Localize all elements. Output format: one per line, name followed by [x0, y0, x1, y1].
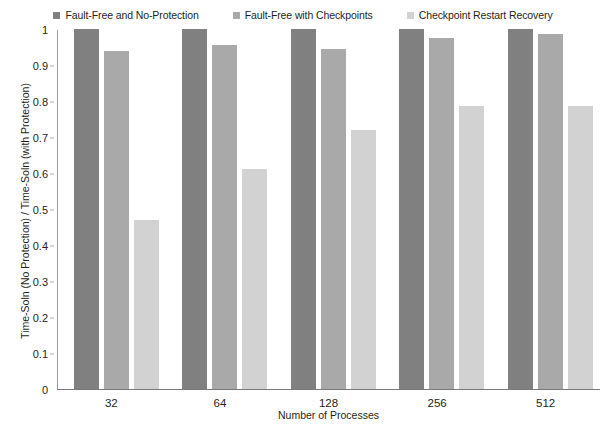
bar-group-128 — [275, 30, 383, 389]
y-axis-tick-mark — [50, 354, 54, 355]
bar-series-0-category-512[interactable] — [508, 29, 533, 389]
legend-swatch-icon-series-2 — [407, 12, 414, 19]
plot-inner — [58, 30, 600, 389]
bar-series-0-category-256[interactable] — [399, 29, 424, 389]
bar-series-1-category-256[interactable] — [429, 38, 454, 389]
y-axis-tick-label: 0.8 — [33, 97, 48, 108]
x-axis-title: Number of Processes — [57, 408, 600, 422]
y-axis-tick-mark — [50, 282, 54, 283]
y-axis-title: Time-Soln (No Protection) / Time-Soln (w… — [19, 36, 31, 386]
y-axis-tick-mark — [50, 138, 54, 139]
legend-item-series-0: Fault-Free and No-Protection — [53, 9, 198, 21]
y-axis-tick-mark — [50, 318, 54, 319]
chart-legend: Fault-Free and No-Protection Fault-Free … — [0, 4, 606, 26]
legend-label-series-2: Checkpoint Restart Recovery — [419, 9, 553, 21]
bar-series-0-category-128[interactable] — [291, 29, 316, 389]
y-axis-tick-mark — [50, 246, 54, 247]
bar-group-64 — [166, 30, 274, 389]
plot-area — [57, 30, 600, 390]
bar-series-2-category-256[interactable] — [459, 106, 484, 389]
y-axis-tick-label: 0.9 — [33, 61, 48, 72]
bar-series-1-category-64[interactable] — [212, 45, 237, 389]
y-axis-tick-mark — [50, 210, 54, 211]
bar-series-2-category-128[interactable] — [351, 130, 376, 389]
bar-series-0-category-32[interactable] — [74, 29, 99, 389]
bar-series-1-category-32[interactable] — [104, 51, 129, 389]
legend-item-series-1: Fault-Free with Checkpoints — [233, 9, 373, 21]
y-axis-tick-label: 0.1 — [33, 349, 48, 360]
legend-item-series-2: Checkpoint Restart Recovery — [407, 9, 553, 21]
bar-group-512 — [492, 30, 600, 389]
y-axis-tick-label: 0 — [42, 385, 48, 396]
y-axis-tick-label: 0.3 — [33, 277, 48, 288]
bar-series-1-category-128[interactable] — [321, 49, 346, 389]
bar-series-1-category-512[interactable] — [538, 34, 563, 389]
legend-label-series-0: Fault-Free and No-Protection — [65, 9, 198, 21]
y-axis-tick-mark — [50, 66, 54, 67]
y-axis-tick-label: 0.2 — [33, 313, 48, 324]
y-axis-tick-label: 0.4 — [33, 241, 48, 252]
bar-series-2-category-64[interactable] — [242, 169, 267, 389]
y-axis-tick-mark — [50, 102, 54, 103]
bar-group-32 — [58, 30, 166, 389]
bar-chart: Fault-Free and No-Protection Fault-Free … — [0, 0, 606, 426]
y-axis-tick-mark — [50, 174, 54, 175]
bar-series-2-category-512[interactable] — [568, 106, 593, 389]
y-axis-tick-label: 1 — [42, 25, 48, 36]
bar-series-2-category-32[interactable] — [134, 220, 159, 389]
bar-series-0-category-64[interactable] — [182, 29, 207, 389]
legend-swatch-icon-series-0 — [53, 12, 60, 19]
y-axis-tick-label: 0.5 — [33, 205, 48, 216]
legend-label-series-1: Fault-Free with Checkpoints — [245, 9, 373, 21]
bar-groups — [58, 30, 600, 389]
bar-group-256 — [383, 30, 491, 389]
y-axis-tick-label: 0.7 — [33, 133, 48, 144]
legend-swatch-icon-series-1 — [233, 12, 240, 19]
y-axis-tick-label: 0.6 — [33, 169, 48, 180]
